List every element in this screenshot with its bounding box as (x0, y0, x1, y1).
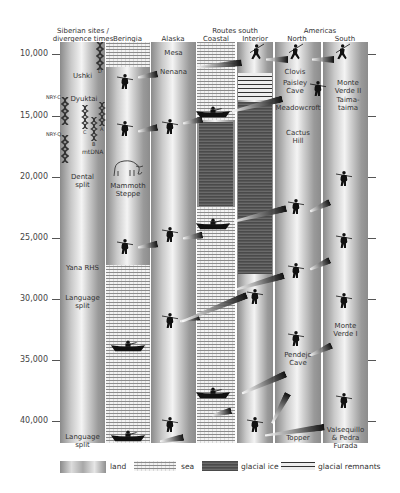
label-haplogroup-c: C (83, 129, 87, 135)
label-haplogroup-b: B (92, 141, 95, 147)
label-language: Language (60, 294, 105, 302)
legend-label-glacial-ice: glacial ice (241, 462, 279, 471)
tick-mark-right (368, 238, 376, 239)
header-routes-south: Routes south (200, 27, 270, 35)
tick-10000: 10,000 (0, 49, 48, 58)
label-dental: Dental (60, 173, 105, 181)
tick-mark-left (52, 54, 60, 55)
label-pedra: & Pedra (323, 434, 368, 442)
hunter-figure-icon (336, 230, 352, 250)
running-hunter-icon (287, 42, 303, 62)
legend-swatch-glacial-ice (202, 461, 238, 471)
label-mtdna: mtDNA (82, 148, 103, 155)
label-cave: Cave (275, 87, 315, 95)
hunter-figure-icon (162, 310, 178, 330)
hunter-figure-icon (288, 196, 304, 216)
label-split: split (60, 302, 105, 310)
beringia-sea-top (106, 42, 150, 67)
tick-mark-right (368, 299, 376, 300)
site-yana-rhs: Yana RHS (60, 264, 105, 272)
tick-mark-right (368, 360, 376, 361)
legend-label-land: land (110, 462, 126, 471)
label-haplogroup-a: A (100, 126, 103, 132)
dna-helix-icon (61, 135, 69, 163)
hunter-figure-icon (117, 118, 133, 138)
dna-helix-icon (90, 117, 98, 141)
header-americas: Americas (290, 27, 350, 35)
boat-icon (193, 387, 233, 399)
label-furada: Furada (323, 442, 368, 450)
site-valsequillo-pedra-furada: Valsequillo & Pedra Furada (323, 426, 368, 450)
label-split: split (60, 441, 105, 449)
site-paisley-cave: Paisley Cave (275, 79, 315, 95)
dna-helix-icon (81, 105, 89, 129)
hunter-figure-icon (247, 286, 263, 306)
label-dental-split: Dental split (60, 173, 105, 189)
tick-mark-left (52, 238, 60, 239)
label-taima-2: taima (328, 104, 368, 112)
tick-20000: 20,000 (0, 172, 48, 181)
label-verde-ii: Verde II (328, 87, 368, 95)
boat-icon (106, 430, 150, 442)
site-cactus-hill: Cactus Hill (275, 129, 321, 145)
hunter-figure-icon (117, 71, 133, 91)
tick-30000: 30,000 (0, 294, 48, 303)
site-taima-taima: Taima- taima (328, 96, 368, 112)
tick-15000: 15,000 (0, 111, 48, 120)
hunter-figure-icon (336, 168, 352, 188)
tick-mark-right (368, 177, 376, 178)
site-mesa: Mesa (151, 49, 196, 57)
legend-swatch-glacial-remnants (281, 462, 315, 470)
header-siberia-line1: Siberian sites / (52, 27, 114, 35)
legend-label-glacial-remnants: glacial remnants (318, 462, 381, 471)
label-monte: Monte (323, 322, 368, 330)
label-hill: Hill (275, 137, 321, 145)
hunter-figure-icon (288, 260, 304, 280)
label-valsequillo: Valsequillo (323, 426, 368, 434)
running-hunter-icon (248, 42, 264, 62)
label-taima: Taima- (328, 96, 368, 104)
label-steppe: Steppe (106, 190, 150, 198)
tick-mark-right (368, 116, 376, 117)
label-mammoth-steppe: Mammoth Steppe (106, 182, 150, 198)
hunter-figure-icon (336, 390, 352, 410)
legend-swatch-land (60, 461, 106, 473)
interior-glacial-remnants (238, 73, 272, 100)
label-split: split (60, 181, 105, 189)
tick-40000: 40,000 (0, 416, 48, 425)
label-haplogroup-d: D (98, 68, 102, 74)
label-language: Language (60, 433, 105, 441)
tick-mark-right (368, 421, 376, 422)
label-cactus: Cactus (275, 129, 321, 137)
tick-mark-left (52, 299, 60, 300)
dna-helix-icon (96, 42, 104, 70)
tick-25000: 25,000 (0, 233, 48, 242)
site-meadowcroft: Meadowcroft (275, 104, 321, 112)
tick-mark-left (52, 177, 60, 178)
hunter-figure-icon (247, 414, 263, 434)
label-verde-i: Verde I (323, 330, 368, 338)
label-monte: Monte (328, 79, 368, 87)
tick-mark-right (368, 54, 376, 55)
label-nry-c: NRY-C (46, 94, 61, 100)
interior-ice (238, 102, 272, 274)
boat-icon (193, 106, 233, 118)
hunter-figure-icon (162, 224, 178, 244)
hunter-figure-icon (310, 78, 326, 98)
site-topper: Topper (275, 434, 321, 442)
dna-helix-icon (61, 97, 69, 125)
site-monte-verde-ii: Monte Verde II (328, 79, 368, 95)
beringia-sea-bottom (106, 265, 150, 443)
label-language-split-30k: Language split (60, 294, 105, 310)
hunter-figure-icon (162, 414, 178, 434)
legend-label-sea: sea (181, 462, 194, 471)
tick-mark-left (52, 116, 60, 117)
hunter-figure-icon (162, 116, 178, 136)
dna-helix-icon (98, 102, 106, 126)
label-language-split-40k: Language split (60, 433, 105, 449)
tick-mark-left (52, 421, 60, 422)
tick-mark-left (52, 360, 60, 361)
boat-icon (193, 218, 233, 230)
hunter-figure-icon (288, 328, 304, 348)
tick-35000: 35,000 (0, 355, 48, 364)
